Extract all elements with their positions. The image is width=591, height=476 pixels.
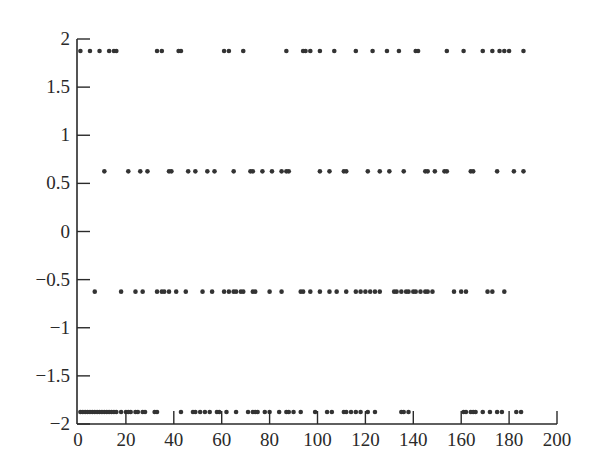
y-tick-label: −0.5 [36, 269, 70, 290]
y-tick-label: 1.5 [46, 76, 70, 97]
data-point [358, 410, 363, 415]
x-tick-label: 120 [351, 429, 380, 450]
data-point [394, 289, 399, 294]
x-tick-label: 160 [447, 429, 476, 450]
y-tick-label: 2 [61, 28, 71, 49]
data-point [330, 410, 335, 415]
data-point [334, 289, 339, 294]
data-point [521, 169, 526, 174]
data-point [502, 289, 507, 294]
x-tick-label: 140 [399, 429, 428, 450]
data-point [308, 289, 313, 294]
data-points [78, 49, 526, 415]
data-point [303, 49, 308, 54]
x-tick-label: 80 [260, 429, 279, 450]
data-point [136, 410, 141, 415]
data-point [461, 49, 466, 54]
data-point [459, 289, 464, 294]
data-point [485, 289, 490, 294]
data-point [227, 49, 232, 54]
data-point [308, 49, 313, 54]
data-point [97, 49, 102, 54]
data-point [234, 289, 239, 294]
data-point [263, 410, 268, 415]
data-point [495, 410, 500, 415]
data-point [480, 49, 485, 54]
data-point [370, 49, 375, 54]
y-tick-label: 0 [61, 221, 71, 242]
data-point [354, 410, 359, 415]
data-point [203, 410, 208, 415]
data-point [253, 289, 258, 294]
data-point [119, 289, 124, 294]
data-point [210, 289, 215, 294]
data-point [425, 289, 430, 294]
data-point [193, 410, 198, 415]
data-point [358, 289, 363, 294]
data-point [452, 289, 457, 294]
data-point [480, 410, 485, 415]
data-point [413, 289, 418, 294]
data-point [138, 169, 143, 174]
y-axis-ticks: −2−1.5−1−0.500.511.52 [36, 28, 90, 434]
data-point [114, 49, 119, 54]
data-point [318, 49, 323, 54]
data-point [354, 49, 359, 54]
data-point [179, 49, 184, 54]
data-point [318, 169, 323, 174]
data-point [354, 289, 359, 294]
data-point [497, 49, 502, 54]
data-point [325, 410, 330, 415]
data-point [377, 289, 382, 294]
data-point [186, 169, 191, 174]
data-point [114, 410, 119, 415]
data-point [279, 169, 284, 174]
data-point [205, 169, 210, 174]
data-point [425, 169, 430, 174]
data-point [286, 410, 291, 415]
data-point [445, 169, 450, 174]
y-tick-label: 1 [61, 124, 71, 145]
data-point [140, 289, 145, 294]
data-point [291, 410, 296, 415]
data-point [318, 289, 323, 294]
data-point [260, 169, 265, 174]
data-point [473, 410, 478, 415]
data-point [385, 49, 390, 54]
data-point [126, 169, 131, 174]
data-point [332, 49, 337, 54]
data-point [377, 169, 382, 174]
data-point [284, 49, 289, 54]
data-point [212, 169, 217, 174]
data-point [401, 169, 406, 174]
data-point [387, 169, 392, 174]
data-point [490, 49, 495, 54]
data-point [251, 169, 256, 174]
data-point [397, 49, 402, 54]
data-point [217, 410, 222, 415]
data-point [286, 169, 291, 174]
data-point [227, 289, 232, 294]
x-axis-ticks: 020406080100120140160180200 [73, 411, 571, 450]
x-tick-label: 200 [543, 429, 572, 450]
scatter-chart: −2−1.5−1−0.500.511.52 020406080100120140… [0, 0, 591, 476]
data-point [277, 410, 282, 415]
y-tick-label: −2 [50, 413, 70, 434]
data-point [519, 410, 524, 415]
data-point [363, 289, 368, 294]
data-point [401, 410, 406, 415]
data-point [344, 169, 349, 174]
data-point [488, 410, 493, 415]
data-point [344, 289, 349, 294]
x-tick-label: 40 [164, 429, 183, 450]
data-point [246, 410, 251, 415]
data-point [373, 410, 378, 415]
y-tick-label: −1.5 [36, 365, 70, 386]
data-point [365, 410, 370, 415]
data-point [490, 289, 495, 294]
data-point [368, 289, 373, 294]
data-point [327, 169, 332, 174]
data-point [279, 289, 284, 294]
data-point [222, 289, 227, 294]
data-point [406, 410, 411, 415]
